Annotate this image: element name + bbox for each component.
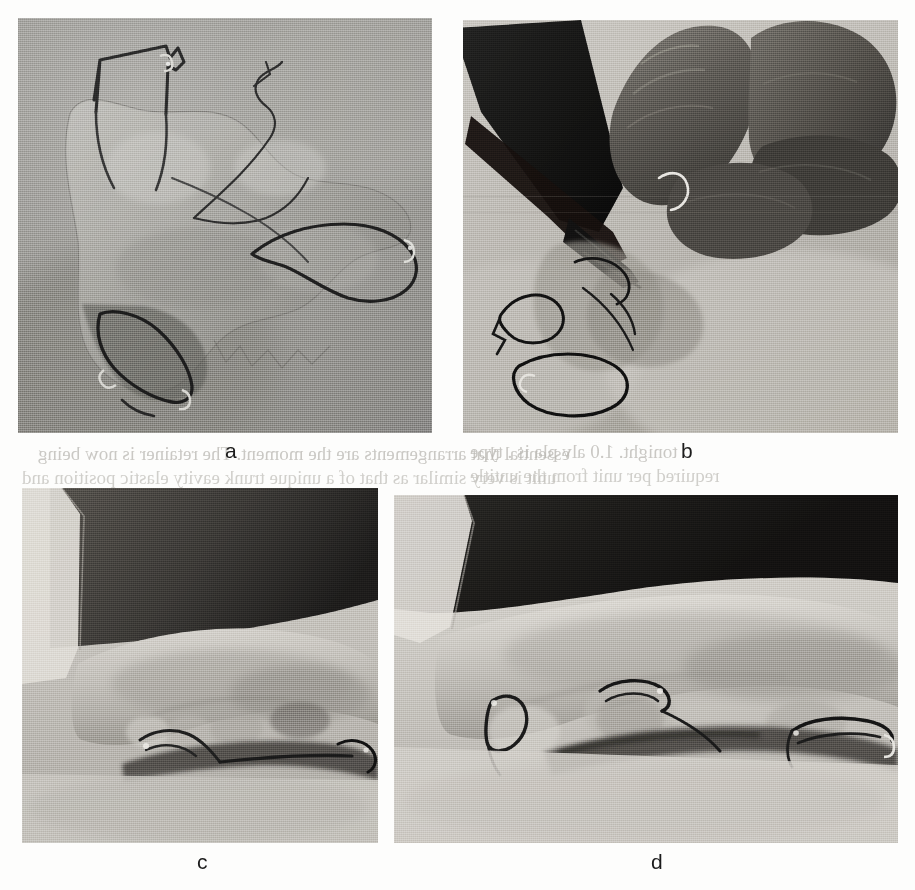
panel-a-photo [18,18,432,433]
figure-panel-d [394,495,898,843]
figure-plate: essential that arrangements are the mome… [0,0,915,890]
bleed-line-4: required per unit from the untitle [470,462,720,489]
panel-c-photo [22,488,378,843]
panel-caption-c: c [197,851,208,872]
panel-b-photo [463,20,898,433]
panel-caption-a: a [225,440,237,461]
panel-d-photo [394,495,898,843]
panel-caption-b: b [681,440,693,461]
panel-caption-d: d [651,851,663,872]
figure-panel-b [463,20,898,433]
figure-panel-a [18,18,432,433]
figure-panel-c [22,488,378,843]
bleed-line-3: tonight. 1.0 alv pla is . type [470,438,677,465]
